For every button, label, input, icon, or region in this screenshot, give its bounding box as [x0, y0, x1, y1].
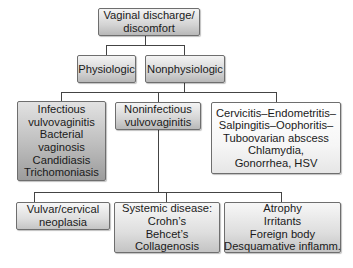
node-vulvar-cervical-neoplasia: Vulvar/cervical neoplasia — [16, 202, 110, 230]
connector-to-noninfectious — [158, 92, 159, 102]
node-text-line: Vaginal discharge/ — [103, 9, 194, 22]
node-text-line: Tuboovarian abscess — [223, 132, 329, 145]
node-text-line: Crohn’s — [148, 215, 186, 228]
node-atrophy-irritants: Atrophy Irritants Foreign body Desquamat… — [224, 202, 341, 253]
node-infectious-vulvovaginitis: Infectious vulvovaginitis Bacterial vagi… — [17, 101, 106, 181]
node-text-line: Systemic disease: — [122, 202, 212, 215]
connector-to-infectious — [61, 92, 62, 101]
connector-nonphysiologic-down — [184, 83, 185, 92]
connector-level1-bar — [106, 45, 185, 46]
node-text-line: neoplasia — [39, 216, 87, 229]
node-text-line: Desquamative inflamm. — [224, 240, 341, 253]
node-text-line: Bacterial — [40, 128, 84, 141]
node-text-line: Salpingitis–Oophoritis– — [219, 119, 333, 132]
node-text-line: Trichomoniasis — [24, 166, 99, 179]
node-text-line: Collagenosis — [135, 240, 199, 253]
node-text-line: Foreign body — [250, 228, 315, 241]
node-text-line: discomfort — [123, 22, 175, 35]
connector-to-nonphysiologic — [184, 45, 185, 55]
node-text-line: Cervicitis–Endometritis– — [216, 107, 336, 120]
connector-level2-bar — [61, 92, 277, 93]
connector-to-neoplasia — [34, 192, 35, 202]
node-text-line: Irritants — [264, 215, 301, 228]
node-text-line: vulvovaginitis — [125, 116, 192, 129]
node-text-line: Nonphysiologic — [147, 63, 223, 76]
node-vaginal-discharge: Vaginal discharge/ discomfort — [98, 8, 200, 36]
connector-root-down — [145, 35, 146, 45]
node-text-line: vaginosis — [38, 141, 85, 154]
connector-to-systemic — [166, 192, 167, 202]
connector-noninfectious-down — [158, 130, 159, 192]
node-text-line: Vulvar/cervical — [27, 203, 99, 216]
node-text-line: Candidiasis — [33, 154, 91, 167]
node-text-line: Chlamydia, — [248, 144, 304, 157]
connector-level3-bar — [34, 192, 282, 193]
node-physiologic: Physiologic — [77, 55, 136, 83]
connector-to-physiologic — [106, 45, 107, 55]
node-systemic-disease: Systemic disease: Crohn’s Behcet’s Colla… — [114, 202, 220, 253]
node-text-line: Behcet’s — [146, 228, 189, 241]
node-text-line: Gonorrhea, HSV — [235, 157, 318, 170]
connector-to-atrophy — [281, 192, 282, 202]
node-cervicitis-pid: Cervicitis–Endometritis– Salpingitis–Oop… — [211, 102, 341, 174]
node-text-line: Infectious — [38, 103, 86, 116]
node-noninfectious-vulvovaginitis: Noninfectious vulvovaginitis — [115, 102, 201, 130]
node-nonphysiologic: Nonphysiologic — [145, 55, 225, 83]
connector-to-cervicitis — [276, 92, 277, 102]
node-text-line: Physiologic — [78, 63, 135, 76]
node-text-line: Atrophy — [263, 202, 302, 215]
node-text-line: vulvovaginitis — [28, 116, 95, 129]
node-text-line: Noninfectious — [124, 103, 192, 116]
